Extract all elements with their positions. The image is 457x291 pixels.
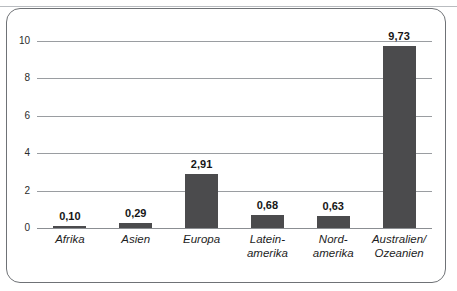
x-axis-category-label: Latein- amerika (235, 232, 301, 261)
x-axis-category-label: Asien (103, 232, 169, 246)
bar[interactable] (317, 216, 350, 228)
bar-slot[interactable]: 0,29 (119, 41, 152, 228)
y-axis-tick-label: 2 (24, 186, 30, 196)
bar-slot[interactable]: 0,63 (317, 41, 350, 228)
bar[interactable] (119, 223, 152, 228)
scan-edge-line (0, 6, 457, 7)
chart-figure: 0246810 0,100,292,910,680,639,73 AfrikaA… (0, 0, 457, 291)
bar-value-label: 2,91 (191, 159, 212, 170)
bar-value-label: 0,29 (125, 208, 146, 219)
y-axis-tick-label: 6 (24, 111, 30, 121)
y-axis-tick-label: 4 (24, 148, 30, 158)
bar-slot[interactable]: 0,68 (251, 41, 284, 228)
bar-slot[interactable]: 0,10 (53, 41, 86, 228)
y-axis-tick-label: 0 (24, 223, 30, 233)
bar[interactable] (53, 226, 86, 228)
x-axis-labels: AfrikaAsienEuropaLatein- amerikaNord- am… (37, 232, 432, 278)
plot-area: 0246810 0,100,292,910,680,639,73 (37, 41, 432, 228)
bar-value-label: 0,10 (59, 211, 80, 222)
bar[interactable] (185, 174, 218, 228)
y-axis-tick-label: 8 (24, 73, 30, 83)
bar-value-label: 9,73 (388, 31, 409, 42)
x-axis-category-label: Afrika (37, 232, 103, 246)
bar-slot[interactable]: 2,91 (185, 41, 218, 228)
bar[interactable] (383, 46, 416, 228)
bar-value-label: 0,63 (323, 201, 344, 212)
y-axis-tick-label: 10 (19, 36, 30, 46)
bar-series: 0,100,292,910,680,639,73 (37, 41, 432, 228)
bar-value-label: 0,68 (257, 200, 278, 211)
x-axis-category-label: Europa (169, 232, 235, 246)
bar[interactable] (251, 215, 284, 228)
gridline-0 (37, 228, 432, 229)
bar-slot[interactable]: 9,73 (383, 41, 416, 228)
x-axis-category-label: Nord- amerika (300, 232, 366, 261)
x-axis-category-label: Australien/ Ozeanien (366, 232, 432, 261)
